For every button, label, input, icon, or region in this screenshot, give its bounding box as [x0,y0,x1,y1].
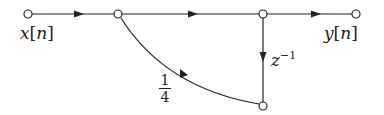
input-label: x[n] [20,25,54,42]
node-1 [114,10,122,18]
node-input [24,10,32,18]
arrow-icon [260,52,267,62]
arrow-icon [311,11,321,18]
signal-flow-graph: x[n] y[n] z−1 1 4 [0,0,384,115]
arrow-icon [74,11,84,18]
delay-label: z−1 [271,50,296,69]
arrow-icon [188,11,198,18]
arrow-icon [180,69,188,78]
node-2 [259,10,267,18]
node-output [352,10,360,18]
output-label: y[n] [324,25,358,42]
graph-canvas [0,0,384,115]
node-3 [259,102,267,110]
edge-feedback [121,18,259,104]
feedback-gain-label: 1 4 [158,72,172,105]
